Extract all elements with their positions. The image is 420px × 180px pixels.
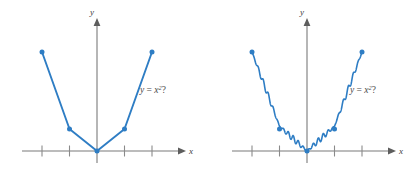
y-axis-arrowhead	[304, 18, 311, 26]
data-point-marker	[95, 149, 100, 154]
data-point-marker	[332, 127, 337, 132]
equation-suffix: ?	[162, 85, 166, 95]
data-point-marker	[277, 127, 282, 132]
equation-suffix: ?	[372, 85, 376, 95]
data-point-marker	[250, 50, 255, 55]
equation-annotation: y = x2?	[139, 84, 166, 95]
data-point-marker	[150, 50, 155, 55]
y-axis-label: y	[89, 7, 94, 17]
plot-right: y x y = x2?	[210, 0, 420, 180]
data-point-marker	[122, 127, 127, 132]
x-axis-label: x	[398, 146, 403, 156]
data-point-marker	[360, 50, 365, 55]
data-point-marker	[305, 149, 310, 154]
plot-left: y x y = x2?	[0, 0, 210, 180]
panel-left-piecewise: y x y = x2?	[0, 0, 210, 180]
x-axis-arrowhead	[178, 148, 186, 155]
y-axis-label: y	[299, 7, 304, 17]
y-axis-arrowhead	[94, 18, 101, 26]
data-point-marker	[67, 127, 72, 132]
x-axis-label: x	[188, 146, 193, 156]
panel-right-wavy: y x y = x2?	[210, 0, 420, 180]
equation-annotation: y = x2?	[349, 84, 376, 95]
data-point-marker	[40, 50, 45, 55]
figure-two-panel-parabola-question: y x y = x2? y x y = x2?	[0, 0, 420, 180]
x-axis-arrowhead	[388, 148, 396, 155]
